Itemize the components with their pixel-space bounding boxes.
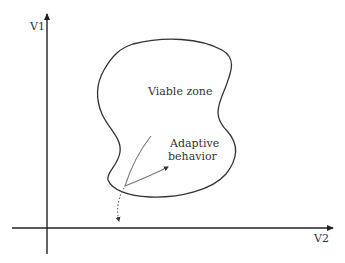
y-axis-label: V1 bbox=[29, 20, 45, 33]
adaptive-behavior-label-line2: behavior bbox=[168, 150, 218, 163]
escape-path-dotted bbox=[118, 188, 124, 221]
x-axis-label: V2 bbox=[313, 232, 329, 245]
viable-zone-boundary bbox=[98, 39, 236, 197]
adaptive-behavior-label-line1: Adaptive bbox=[169, 137, 219, 150]
viable-zone-label: Viable zone bbox=[147, 85, 212, 98]
adaptive-trajectory bbox=[125, 136, 168, 186]
viability-diagram: V1 V2 Viable zone Adaptive behavior bbox=[0, 0, 345, 263]
